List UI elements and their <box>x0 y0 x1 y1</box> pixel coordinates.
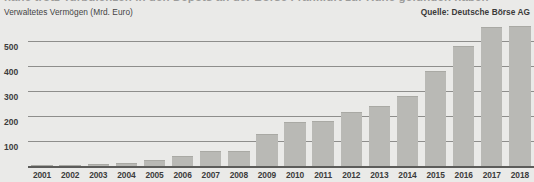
bar-column <box>506 22 534 167</box>
x-tick-label-2006: 2006 <box>169 169 197 182</box>
bar-2017 <box>481 27 502 166</box>
y-tick-label-200: 200 <box>4 117 18 127</box>
x-tick-label-2011: 2011 <box>309 169 337 182</box>
plot-area: 100200300400500 <box>0 22 534 167</box>
bar-column <box>422 22 450 167</box>
bar-column <box>281 22 309 167</box>
y-tick-label-100: 100 <box>4 142 18 152</box>
y-tick-label-500: 500 <box>4 42 18 52</box>
x-tick-label-2007: 2007 <box>197 169 225 182</box>
x-tick-label-2009: 2009 <box>253 169 281 182</box>
bar-column <box>478 22 506 167</box>
x-tick-label-2005: 2005 <box>140 169 168 182</box>
bar-column <box>197 22 225 167</box>
bar-column <box>28 22 56 167</box>
y-tick-label-300: 300 <box>4 92 18 102</box>
bar-2010 <box>284 122 305 166</box>
bar-series <box>28 22 534 167</box>
bar-column <box>253 22 281 167</box>
bar-2014 <box>397 96 418 166</box>
x-tick-label-2004: 2004 <box>112 169 140 182</box>
clipped-headline: nahe trotz Turbulenzen in den Depots an … <box>0 0 534 6</box>
x-tick-label-2001: 2001 <box>28 169 56 182</box>
bar-2009 <box>256 134 277 167</box>
x-tick-label-2002: 2002 <box>56 169 84 182</box>
bar-column <box>393 22 421 167</box>
x-tick-label-2018: 2018 <box>506 169 534 182</box>
bar-2006 <box>172 156 193 166</box>
chart-container: nahe trotz Turbulenzen in den Depots an … <box>0 0 534 182</box>
bar-column <box>84 22 112 167</box>
clipped-headline-text: nahe trotz Turbulenzen in den Depots an … <box>4 0 489 3</box>
x-tick-label-2010: 2010 <box>281 169 309 182</box>
bar-2018 <box>509 26 530 166</box>
y-axis-title: Verwaltetes Vermögen (Mrd. Euro) <box>4 7 133 17</box>
x-tick-label-2013: 2013 <box>365 169 393 182</box>
x-tick-label-2012: 2012 <box>337 169 365 182</box>
bar-column <box>225 22 253 167</box>
bar-2007 <box>200 151 221 166</box>
bar-column <box>169 22 197 167</box>
bar-column <box>112 22 140 167</box>
bar-column <box>56 22 84 167</box>
y-tick-label-400: 400 <box>4 67 18 77</box>
x-tick-label-2014: 2014 <box>393 169 421 182</box>
bar-2013 <box>369 106 390 166</box>
bar-column <box>140 22 168 167</box>
x-tick-label-2016: 2016 <box>450 169 478 182</box>
x-tick-label-2003: 2003 <box>84 169 112 182</box>
x-tick-label-2017: 2017 <box>478 169 506 182</box>
bar-2011 <box>312 121 333 166</box>
bar-2015 <box>425 71 446 166</box>
bar-column <box>337 22 365 167</box>
x-tick-label-2008: 2008 <box>225 169 253 182</box>
x-tick-label-2015: 2015 <box>422 169 450 182</box>
bar-2008 <box>228 151 249 166</box>
bar-2016 <box>453 46 474 166</box>
bar-column <box>450 22 478 167</box>
x-axis-ticks: 2001200220032004200520062007200820092010… <box>28 169 534 182</box>
x-axis-line <box>28 166 534 168</box>
bar-2012 <box>341 112 362 166</box>
bar-column <box>309 22 337 167</box>
bar-column <box>365 22 393 167</box>
source-label: Quelle: Deutsche Börse AG <box>421 7 530 17</box>
chart-header: Verwaltetes Vermögen (Mrd. Euro) Quelle:… <box>0 7 534 20</box>
